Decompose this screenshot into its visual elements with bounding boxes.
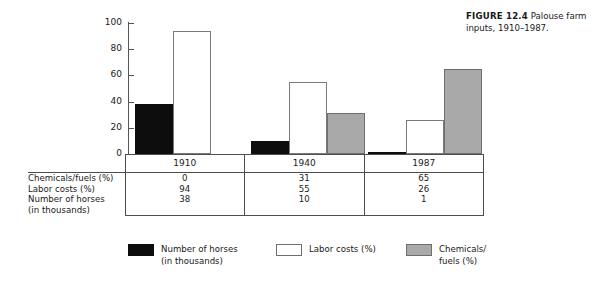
legend-item-labor: Labor costs (%) [276, 243, 376, 256]
cell-chemicals-1987: 65 [365, 173, 484, 184]
legend-swatch-labor-icon [276, 244, 302, 256]
bar-chemicals-1987 [444, 69, 482, 154]
table-body-row: Chemicals/fuels (%) Labor costs (%) Numb… [28, 173, 484, 216]
data-table: 1910 1940 1987 Chemicals/fuels (%) Labor… [28, 154, 484, 234]
legend-label-horses: Number of horses (in thousands) [161, 243, 238, 267]
legend-item-horses: Number of horses (in thousands) [128, 243, 238, 267]
row-label-chemicals: Chemicals/fuels (%) [28, 173, 125, 184]
row-label-horses-unit: (in thousands) [28, 205, 125, 216]
legend-swatch-horses-icon [128, 244, 154, 256]
cell-chemicals-1910: 0 [126, 173, 245, 184]
cell-chemicals-1940: 31 [245, 173, 364, 184]
legend-swatch-chemicals-icon [406, 244, 432, 256]
cell-labor-1910: 94 [126, 184, 245, 195]
table-header-spacer [28, 155, 125, 173]
cell-horses-1910: 38 [126, 194, 245, 205]
bar-horses-1940 [251, 141, 289, 154]
table-header-row: 1910 1940 1987 [28, 155, 484, 173]
table-header-1910: 1910 [125, 155, 245, 173]
legend-label-chemicals-line1: Chemicals/ [439, 243, 486, 255]
legend-label-labor-line1: Labor costs (%) [309, 243, 376, 255]
table-header-1987: 1987 [364, 155, 484, 173]
legend-label-chemicals-line2: fuels (%) [439, 255, 486, 267]
legend-label-horses-line1: Number of horses [161, 243, 238, 255]
row-label-labor: Labor costs (%) [28, 184, 125, 195]
table-column-1940: 31 55 10 [245, 173, 365, 216]
table-column-1987: 65 26 1 [364, 173, 484, 216]
bar-chart: 100 80 60 40 20 0 [0, 0, 470, 170]
legend-label-chemicals: Chemicals/ fuels (%) [439, 243, 486, 267]
bars-layer [0, 22, 470, 154]
legend-label-labor: Labor costs (%) [309, 243, 376, 255]
row-label-horses: Number of horses [28, 194, 125, 205]
figure-label: FIGURE 12.4 [466, 11, 528, 21]
table-row-labels: Chemicals/fuels (%) Labor costs (%) Numb… [28, 173, 125, 216]
table-header-1940: 1940 [245, 155, 365, 173]
cell-labor-1940: 55 [245, 184, 364, 195]
bar-horses-1910 [135, 104, 173, 154]
figure-caption: FIGURE 12.4 Palouse farm inputs, 1910–19… [466, 10, 604, 35]
cell-horses-1940: 10 [245, 194, 364, 205]
bar-labor-1940 [289, 82, 327, 154]
bar-chemicals-1940 [327, 113, 365, 154]
chart-legend: Number of horses (in thousands) Labor co… [128, 243, 488, 277]
cell-horses-1987: 1 [365, 194, 484, 205]
cell-labor-1987: 26 [365, 184, 484, 195]
legend-label-horses-line2: (in thousands) [161, 255, 238, 267]
table-column-1910: 0 94 38 [125, 173, 245, 216]
bar-labor-1987 [406, 120, 444, 154]
bar-labor-1910 [173, 31, 211, 154]
legend-item-chemicals: Chemicals/ fuels (%) [406, 243, 486, 267]
